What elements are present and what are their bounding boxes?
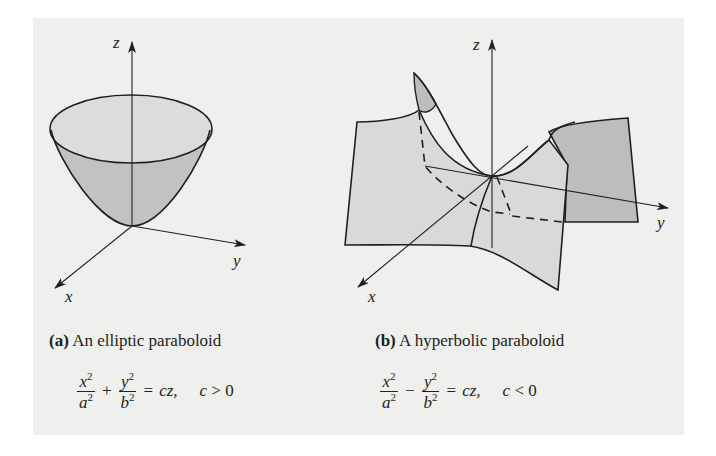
- saddle-left-flap: [414, 73, 436, 112]
- hyperbolic-paraboloid-diagram: [345, 40, 668, 290]
- operator-minus: −: [405, 381, 415, 401]
- fraction-x-over-a: x2 a2: [380, 371, 398, 411]
- y-axis-label-b: y: [657, 214, 665, 231]
- x-axis-label-a: x: [65, 288, 73, 305]
- caption-a-tag: (a): [49, 331, 69, 350]
- z-axis-label-b: z: [473, 36, 480, 53]
- caption-a-text: An elliptic paraboloid: [72, 331, 221, 350]
- paraboloid-rim: [50, 95, 212, 163]
- y-axis-a: [132, 226, 245, 245]
- operator-plus: +: [102, 381, 112, 401]
- caption-b-text: A hyperbolic paraboloid: [399, 331, 564, 350]
- fraction-y-over-b: y2 b2: [422, 371, 440, 411]
- condition-a: c > 0: [200, 381, 234, 401]
- y-axis-label-a: y: [233, 252, 241, 269]
- caption-b-tag: (b): [375, 331, 396, 350]
- elliptic-paraboloid-diagram: [50, 42, 245, 288]
- saddle-main-sheet: [345, 110, 568, 290]
- fraction-x-over-a: x2 a2: [77, 371, 95, 411]
- condition-b: c < 0: [503, 381, 537, 401]
- equation-a: x2 a2 + y2 b2 = cz, c > 0: [74, 371, 234, 411]
- x-axis-label-b: x: [368, 288, 376, 305]
- fraction-y-over-b: y2 b2: [119, 371, 137, 411]
- rhs-cz: cz,: [159, 381, 177, 401]
- caption-a: (a) An elliptic paraboloid: [49, 332, 221, 349]
- z-axis-label-a: z: [113, 34, 120, 51]
- rhs-cz: cz,: [462, 381, 480, 401]
- caption-b: (b) A hyperbolic paraboloid: [375, 332, 564, 349]
- equation-b: x2 a2 − y2 b2 = cz, c < 0: [377, 371, 537, 411]
- x-axis-a: [55, 226, 132, 288]
